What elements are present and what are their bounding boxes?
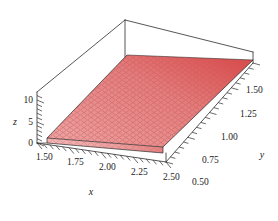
x-tick-label-1: 1.75 — [67, 157, 84, 167]
y-tick-label-0: 0.50 — [192, 177, 209, 187]
y-axis-label: y — [259, 149, 265, 160]
z-axis-ticks — [37, 96, 44, 146]
z-axis-label: z — [12, 116, 17, 127]
x-tick-label-0: 1.50 — [36, 152, 53, 162]
x-tick-label-4: 2.50 — [163, 172, 180, 182]
z-tick-label-2: 10 — [24, 95, 34, 105]
z-tick-label-0: 0 — [28, 138, 33, 148]
y-tick-label-2: 1.00 — [221, 132, 238, 142]
surface-mesh — [40, 48, 260, 160]
x-axis-label: x — [88, 186, 94, 197]
x-axis-tick-labels: 1.50 1.75 2.00 2.25 2.50 — [36, 152, 180, 182]
y-tick-label-1: 0.75 — [202, 155, 219, 165]
z-tick-label-1: 5 — [28, 117, 33, 127]
z-axis-tick-labels: 0 5 10 — [24, 95, 34, 148]
x-tick-label-2: 2.00 — [99, 162, 116, 172]
y-tick-label-3: 1.25 — [240, 109, 257, 119]
x-tick-label-3: 2.25 — [131, 167, 148, 177]
plot-canvas: 0 5 10 1.50 1.75 2.00 2.25 2.50 0.50 0.7… — [0, 0, 278, 221]
surface-plot-3d: 0 5 10 1.50 1.75 2.00 2.25 2.50 0.50 0.7… — [0, 0, 278, 221]
y-tick-label-4: 1.50 — [246, 85, 263, 95]
